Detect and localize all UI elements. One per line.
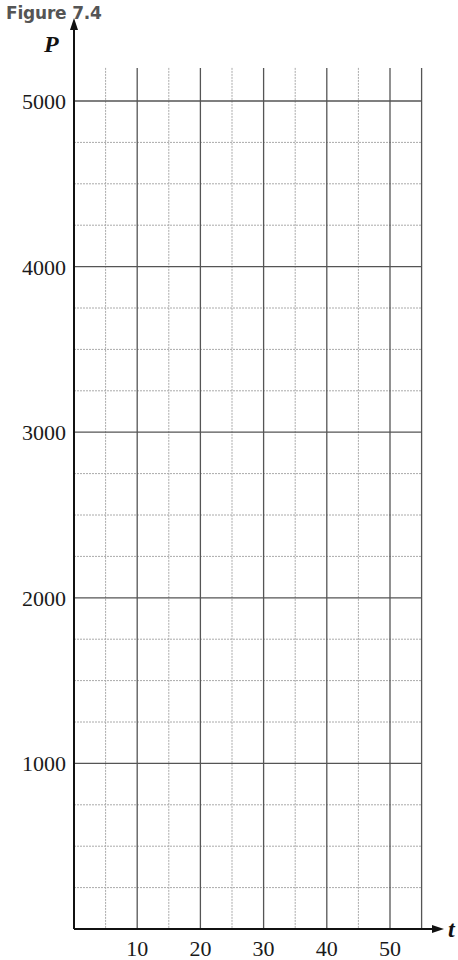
y-axis-label: P (43, 31, 59, 57)
x-tick-label: 50 (379, 936, 401, 960)
minor-grid (74, 68, 422, 929)
x-tick-label: 30 (253, 936, 275, 960)
x-axis-arrow-icon (432, 925, 444, 933)
x-tick-label: 20 (189, 936, 211, 960)
y-tick-label: 1000 (22, 751, 66, 776)
x-tick-label: 10 (126, 936, 148, 960)
y-tick-labels: 10002000300040005000 (22, 89, 66, 776)
major-grid (74, 68, 422, 929)
x-axis-label: t (448, 916, 456, 942)
axes (70, 18, 444, 933)
x-tick-label: 40 (316, 936, 338, 960)
y-tick-label: 5000 (22, 89, 66, 114)
y-tick-label: 3000 (22, 420, 66, 445)
y-axis-arrow-icon (70, 18, 78, 30)
chart-area: 10002000300040005000 1020304050 P t (0, 0, 458, 960)
x-tick-labels: 1020304050 (126, 936, 401, 960)
y-tick-label: 4000 (22, 255, 66, 280)
y-tick-label: 2000 (22, 586, 66, 611)
